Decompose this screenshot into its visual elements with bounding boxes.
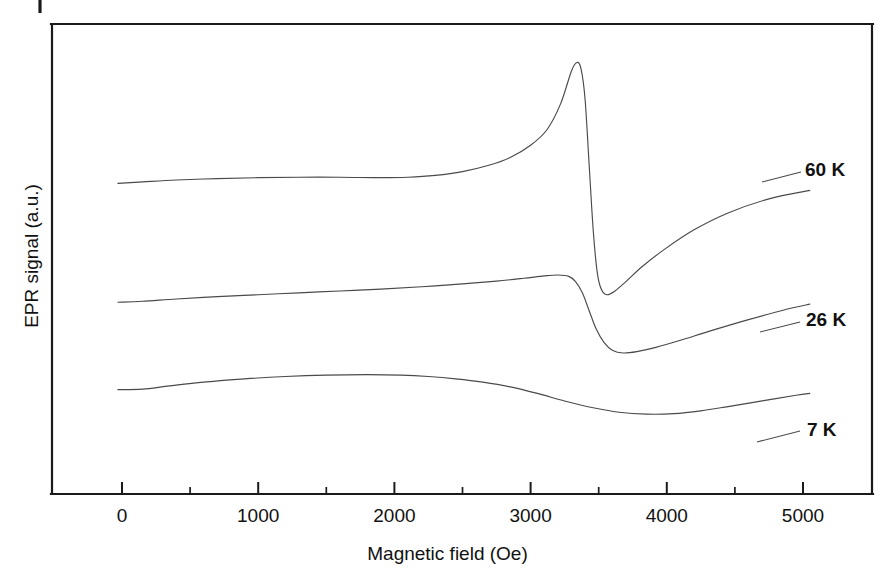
spectrum-curve-60k [118,62,810,294]
spectrum-curves [118,62,810,414]
spectrum-curve-26k [118,275,810,353]
leader-line-60k [762,172,801,182]
leader-line-26k [760,322,800,332]
series-label-60k: 60 K [805,159,845,181]
epr-spectra-figure: 010002000300040005000 60 K 26 K 7 K Magn… [0,0,895,580]
x-tick-label: 5000 [782,505,824,527]
x-tick-label: 4000 [646,505,688,527]
series-label-7k: 7 K [807,419,837,441]
x-tick-label: 3000 [509,505,551,527]
leader-line-7k [757,431,800,442]
y-axis-label: EPR signal (a.u.) [21,184,42,328]
x-tick-label: 2000 [373,505,415,527]
x-axis-label: Magnetic field (Oe) [0,543,895,565]
plot-frame [51,24,873,494]
y-axis-label-wrapper: EPR signal (a.u.) [21,56,43,456]
x-tick-label: 1000 [237,505,279,527]
x-tick-label: 0 [117,505,128,527]
x-axis-ticks [122,482,803,494]
spectrum-curve-7k [118,375,810,415]
plot-canvas [0,0,895,580]
series-label-26k: 26 K [806,309,846,331]
